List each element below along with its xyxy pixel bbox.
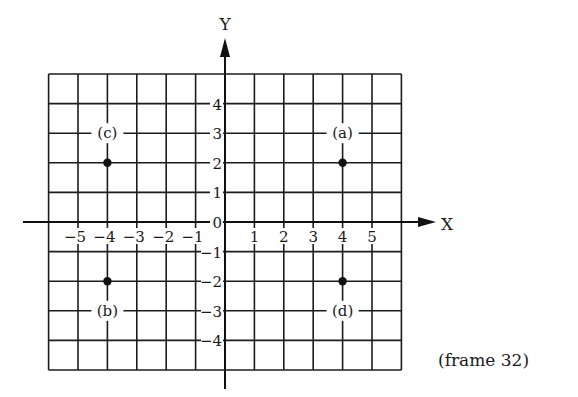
x-tick-label: 4: [338, 228, 348, 246]
x-tick-label: −5: [64, 228, 86, 246]
y-axis-title: Y: [218, 14, 231, 34]
point-label: (c): [97, 124, 117, 142]
data-point-dot: [338, 277, 346, 285]
x-tick-label: 3: [308, 228, 318, 246]
x-tick-label: 1: [250, 228, 260, 246]
axes: [23, 38, 436, 389]
x-tick-label: −3: [123, 228, 145, 246]
figure-caption: (frame 32): [438, 350, 529, 370]
y-tick-label: −3: [200, 303, 222, 321]
y-tick-label: 3: [212, 125, 222, 143]
y-tick-label: −4: [200, 332, 222, 350]
y-axis-arrow-icon: [220, 38, 230, 57]
x-tick-label: 2: [279, 228, 289, 246]
y-tick-label: 2: [212, 155, 222, 173]
point-label: (d): [332, 302, 353, 320]
x-tick-label: 5: [367, 228, 377, 246]
y-tick-label: 0: [212, 214, 222, 232]
coordinate-plane: −5−4−3−2−11234543210−1−2−3−4 (a)(b)(c)(d…: [0, 0, 578, 397]
data-point-dot: [103, 277, 111, 285]
data-point-dot: [338, 159, 346, 167]
data-point-dot: [103, 159, 111, 167]
y-tick-label: 1: [212, 184, 222, 202]
y-tick-label: −2: [200, 273, 222, 291]
y-tick-label: −1: [200, 244, 222, 262]
coordinate-plane-figure: −5−4−3−2−11234543210−1−2−3−4 (a)(b)(c)(d…: [0, 0, 578, 397]
x-axis-arrow-icon: [418, 217, 436, 227]
x-tick-label: −2: [152, 228, 174, 246]
point-label: (b): [97, 302, 118, 320]
point-label: (a): [332, 124, 353, 142]
x-axis-title: X: [441, 214, 454, 234]
y-tick-label: 4: [212, 96, 222, 114]
x-tick-label: −4: [93, 228, 115, 246]
